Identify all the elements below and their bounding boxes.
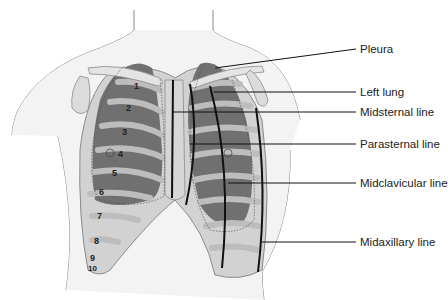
label-parasternal-line: Parasternal line — [360, 137, 440, 151]
rib-number-2: 2 — [126, 101, 131, 115]
rib-number-6: 6 — [99, 185, 104, 199]
label-midclavicular-line: Midclavicular line — [360, 176, 448, 190]
rib-number-1: 1 — [134, 79, 139, 93]
midsternal-vertical-line — [172, 80, 173, 198]
rib-number-5: 5 — [112, 166, 117, 180]
rib-number-8: 8 — [94, 234, 99, 248]
rib-number-3: 3 — [122, 125, 127, 139]
label-midsternal-line: Midsternal line — [360, 105, 434, 119]
label-left-lung: Left lung — [360, 85, 404, 99]
label-pleura: Pleura — [360, 42, 393, 56]
sternum — [165, 80, 185, 200]
rib-number-10: 10 — [88, 262, 97, 276]
label-midaxillary-line: Midaxillary line — [360, 235, 435, 249]
rib-number-4: 4 — [118, 147, 123, 161]
rib-number-7: 7 — [97, 209, 102, 223]
